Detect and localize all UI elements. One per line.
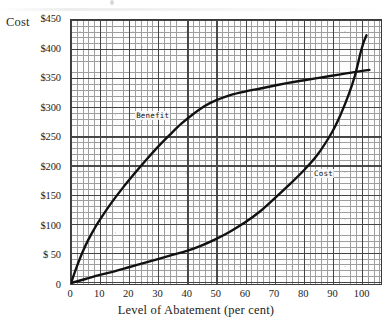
x-axis-tick: 40 xyxy=(181,288,192,299)
series-label-benefit: Benefit xyxy=(135,111,170,120)
x-axis-tick: 70 xyxy=(269,288,280,299)
y-axis-tick: $100 xyxy=(40,220,61,231)
series-label-cost: Cost xyxy=(313,169,334,178)
y-axis-tick: $150 xyxy=(40,190,61,201)
x-axis-tick: 90 xyxy=(327,288,338,299)
x-axis-tick-labels: 0102030405060708090100 xyxy=(70,288,382,304)
series-line-cost xyxy=(71,35,366,283)
cost-benefit-abatement-chart: Cost 0$ 50$100$150$200$250$300$350$400$4… xyxy=(0,0,392,324)
x-axis-tick: 100 xyxy=(354,288,370,299)
y-axis-tick: $400 xyxy=(40,43,61,54)
x-axis-tick: 10 xyxy=(94,288,105,299)
y-axis-tick-labels: 0$ 50$100$150$200$250$300$350$400$450 xyxy=(0,19,66,285)
y-axis-tick: $450 xyxy=(40,13,61,24)
plot-area: BenefitCost xyxy=(70,19,382,285)
y-axis-tick: $250 xyxy=(40,131,61,142)
y-axis-tick: $ 50 xyxy=(43,249,61,260)
y-axis-tick: 0 xyxy=(56,279,61,290)
x-axis-tick: 60 xyxy=(240,288,251,299)
x-axis-tick: 0 xyxy=(67,288,72,299)
x-axis-tick: 30 xyxy=(152,288,163,299)
scan-artifact-band xyxy=(0,8,392,11)
x-axis-label: Level of Abatement (per cent) xyxy=(0,303,392,318)
y-axis-tick: $300 xyxy=(40,102,61,113)
y-axis-tick: $200 xyxy=(40,161,61,172)
x-axis-tick: 20 xyxy=(123,288,134,299)
x-axis-tick: 50 xyxy=(211,288,222,299)
scan-artifact-dot xyxy=(110,0,114,5)
x-axis-tick: 80 xyxy=(298,288,309,299)
series-curves xyxy=(71,20,381,284)
y-axis-tick: $350 xyxy=(40,72,61,83)
